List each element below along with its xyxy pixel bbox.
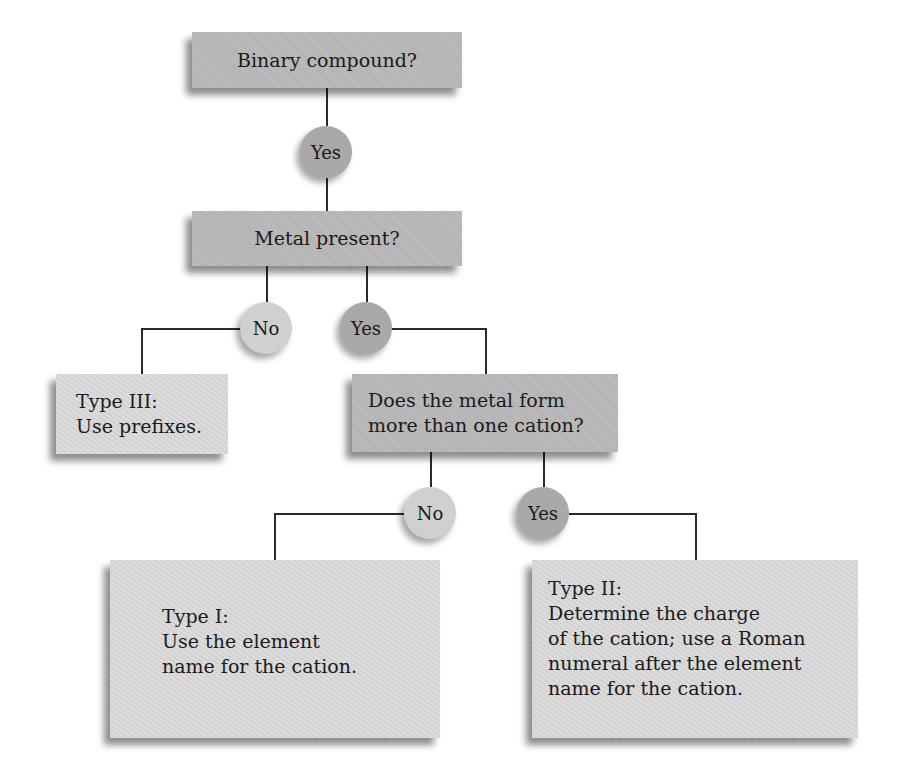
result-type-iii: Type III: Use prefixes.	[56, 374, 228, 454]
decision-binary-compound: Binary compound?	[192, 32, 462, 88]
connector-cation-no	[430, 452, 432, 487]
connector-no-type1-v	[274, 513, 276, 560]
answer-yes-cation-label: Yes	[528, 503, 558, 524]
decision-multiple-cations: Does the metal form more than one cation…	[352, 374, 618, 452]
connector-yes-type2-h	[569, 513, 696, 515]
connector-yes-type2-v	[695, 513, 697, 560]
result-type-iii-label: Type III: Use prefixes.	[76, 389, 202, 439]
answer-no-metal: No	[240, 302, 292, 354]
decision-metal-present-label: Metal present?	[254, 226, 399, 251]
result-type-i-label: Type I: Use the element name for the cat…	[162, 604, 357, 679]
connector-metal-no	[266, 266, 268, 302]
answer-no-metal-label: No	[253, 318, 280, 339]
flowchart-canvas: Binary compound? Metal present? Does the…	[0, 0, 899, 784]
decision-binary-compound-label: Binary compound?	[237, 48, 417, 73]
result-type-ii: Type II: Determine the charge of the cat…	[532, 560, 858, 738]
answer-yes-metal-label: Yes	[351, 318, 381, 339]
connector-no-type1-h	[274, 513, 404, 515]
answer-yes-binary: Yes	[300, 126, 352, 178]
answer-yes-binary-label: Yes	[311, 142, 341, 163]
answer-yes-metal: Yes	[340, 302, 392, 354]
connector-cation-yes	[543, 452, 545, 487]
connector-yes-cation-v	[485, 328, 487, 374]
connector-yes-cation-h	[392, 328, 486, 330]
answer-no-cation: No	[404, 487, 456, 539]
connector-no-type3-v	[141, 328, 143, 374]
connector-binary-yes	[326, 88, 328, 126]
decision-multiple-cations-label: Does the metal form more than one cation…	[368, 388, 584, 438]
connector-no-type3-h	[141, 328, 241, 330]
result-type-ii-label: Type II: Determine the charge of the cat…	[548, 576, 805, 701]
answer-no-cation-label: No	[417, 503, 444, 524]
connector-metal-yes	[366, 266, 368, 302]
decision-metal-present: Metal present?	[192, 211, 462, 266]
answer-yes-cation: Yes	[517, 487, 569, 539]
connector-yes-metal	[326, 178, 328, 211]
result-type-i: Type I: Use the element name for the cat…	[110, 560, 440, 738]
